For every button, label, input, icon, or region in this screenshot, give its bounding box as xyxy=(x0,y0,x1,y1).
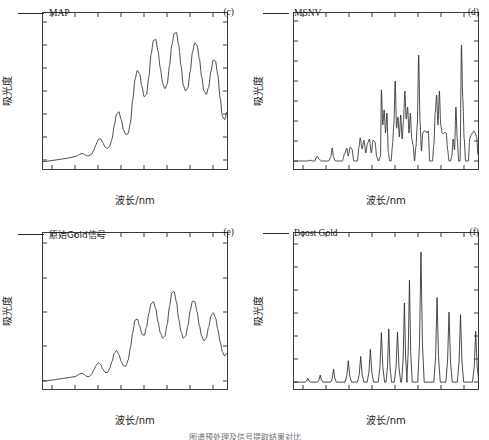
x-tick-label: 650 xyxy=(160,169,174,170)
y-tick-mark xyxy=(474,81,478,82)
x-axis-label-d: 波长/nm xyxy=(293,192,479,207)
y-tick-mark xyxy=(474,161,478,162)
legend-label-f: Boost Gold xyxy=(294,228,338,238)
x-tick-mark xyxy=(121,233,122,237)
figure-caption: 图谱预处理及信号提取结果对比 xyxy=(0,431,489,440)
plot-area-f: 00.10.20.30.40.50.6400450500550600650700… xyxy=(293,232,479,390)
plot-canvas-c xyxy=(43,13,227,169)
y-tick-mark xyxy=(43,91,47,92)
y-tick-mark xyxy=(294,267,298,268)
x-tick-mark xyxy=(418,165,419,169)
x-tick-label: 700 xyxy=(183,389,197,390)
x-tick-mark xyxy=(75,13,76,17)
y-axis-label-d: 吸光度 xyxy=(250,76,265,106)
y-tick-mark xyxy=(223,159,227,160)
x-tick-mark xyxy=(372,13,373,17)
y-tick-mark xyxy=(294,244,298,245)
y-tick-mark xyxy=(223,22,227,23)
y-tick-mark xyxy=(294,81,298,82)
panel-f: 吸光度 00.10.20.30.40.50.640045050055060065… xyxy=(245,220,489,440)
y-tick-mark xyxy=(43,136,47,137)
x-tick-mark xyxy=(144,385,145,389)
legend-c: MAP xyxy=(18,8,70,18)
x-tick-mark xyxy=(167,385,168,389)
x-tick-mark xyxy=(326,13,327,17)
x-tick-mark xyxy=(98,13,99,17)
x-tick-mark xyxy=(418,385,419,389)
x-tick-label: 450 xyxy=(319,389,333,390)
x-tick-mark xyxy=(167,13,168,17)
y-tick-mark xyxy=(294,161,298,162)
legend-label-c: MAP xyxy=(49,8,70,18)
spectral-figure: 吸光度 00.10.20.30.40.50.640045050055060065… xyxy=(0,0,489,440)
x-tick-mark xyxy=(464,385,465,389)
x-tick-mark xyxy=(303,165,304,169)
x-tick-mark xyxy=(213,165,214,169)
x-tick-mark xyxy=(372,233,373,237)
x-tick-label: 700 xyxy=(434,169,448,170)
legend-line-icon xyxy=(18,234,44,235)
legend-label-e: 原始Gold信号 xyxy=(49,228,106,241)
y-tick-mark xyxy=(294,313,298,314)
y-tick-mark xyxy=(294,336,298,337)
x-tick-mark xyxy=(121,385,122,389)
y-tick-mark xyxy=(43,113,47,114)
x-tick-mark xyxy=(464,233,465,237)
y-tick-mark xyxy=(43,68,47,69)
x-tick-label: 600 xyxy=(137,169,151,170)
y-tick-mark xyxy=(474,101,478,102)
x-tick-mark xyxy=(349,13,350,17)
panel-e: 吸光度 00.050.100.150.204004505005506006507… xyxy=(0,220,244,440)
y-tick-mark xyxy=(474,359,478,360)
x-tick-label: 450 xyxy=(68,169,82,170)
x-tick-mark xyxy=(190,385,191,389)
x-tick-label: 700 xyxy=(183,169,197,170)
plot-canvas-e xyxy=(43,233,227,389)
y-tick-mark xyxy=(294,101,298,102)
y-tick-mark xyxy=(294,141,298,142)
x-tick-mark xyxy=(121,13,122,17)
x-tick-label: 750 xyxy=(206,389,220,390)
y-tick-mark xyxy=(43,346,47,347)
x-tick-mark xyxy=(213,233,214,237)
x-tick-label: 550 xyxy=(114,169,128,170)
x-tick-label: 400 xyxy=(45,389,59,390)
x-tick-mark xyxy=(167,165,168,169)
y-axis-label-c: 吸光度 xyxy=(0,76,14,106)
x-tick-label: 550 xyxy=(365,169,379,170)
x-tick-mark xyxy=(144,165,145,169)
x-tick-label: 600 xyxy=(388,169,402,170)
y-tick-mark xyxy=(223,312,227,313)
x-axis-label-c: 波长/nm xyxy=(42,192,228,207)
x-tick-mark xyxy=(418,13,419,17)
x-tick-mark xyxy=(441,385,442,389)
y-tick-mark xyxy=(294,21,298,22)
x-tick-label: 400 xyxy=(296,389,310,390)
x-axis-label-f: 波长/nm xyxy=(293,412,479,427)
y-tick-mark xyxy=(43,277,47,278)
x-tick-mark xyxy=(167,233,168,237)
plot-canvas-f xyxy=(294,233,478,389)
y-tick-mark xyxy=(474,382,478,383)
x-tick-label: 550 xyxy=(365,389,379,390)
x-tick-mark xyxy=(372,385,373,389)
legend-line-icon xyxy=(18,13,44,14)
panel-tag-f: (f) xyxy=(470,227,480,237)
y-tick-mark xyxy=(223,136,227,137)
panel-tag-d: (d) xyxy=(468,7,479,17)
y-tick-mark xyxy=(223,45,227,46)
x-tick-mark xyxy=(326,165,327,169)
y-tick-mark xyxy=(294,61,298,62)
y-tick-mark xyxy=(223,346,227,347)
y-tick-mark xyxy=(294,382,298,383)
y-tick-mark xyxy=(474,267,478,268)
y-tick-mark xyxy=(294,359,298,360)
y-tick-mark xyxy=(474,61,478,62)
x-tick-mark xyxy=(121,165,122,169)
x-tick-mark xyxy=(349,165,350,169)
y-tick-mark xyxy=(474,313,478,314)
legend-d: MSNV xyxy=(263,8,321,18)
x-tick-label: 500 xyxy=(91,169,105,170)
x-tick-mark xyxy=(213,385,214,389)
y-tick-mark xyxy=(43,243,47,244)
